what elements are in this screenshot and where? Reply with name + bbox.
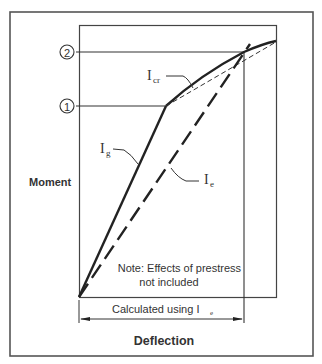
y-axis-label: Moment (29, 176, 72, 188)
arrow-right-icon (233, 317, 243, 321)
point-1-marker: 1 (60, 99, 74, 113)
ie-leader (171, 168, 199, 181)
point-2-label: 2 (64, 47, 70, 59)
dimension-label-sub: e (210, 309, 213, 317)
note-line-1: Note: Effects of prestress (118, 262, 242, 274)
dimension-label-main: Calculated using I (112, 303, 199, 315)
arrow-left-icon (80, 317, 90, 321)
ig-label-sub: g (106, 148, 111, 158)
plot-frame (80, 26, 277, 298)
moment-deflection-diagram: 2 1 I cr I g I e Moment Note: Effects of… (0, 0, 322, 364)
ie-line (79, 44, 250, 297)
ig-leader (113, 149, 138, 164)
icr-label-sub: cr (153, 75, 160, 85)
x-axis-label: Deflection (134, 334, 194, 348)
point-2-marker: 2 (60, 45, 74, 59)
ig-label-main: I (100, 141, 105, 156)
ie-label-sub: e (210, 179, 214, 189)
icr-label-main: I (147, 68, 152, 83)
ie-label-main: I (204, 172, 209, 187)
note-line-2: not included (139, 276, 198, 288)
point-1-label: 1 (64, 101, 70, 113)
